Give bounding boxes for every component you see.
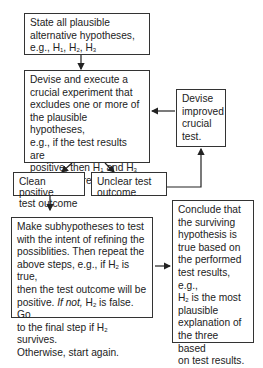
node-text: excludes one or more of	[30, 99, 144, 112]
node-state-hypotheses: State all plausible alternative hypothes…	[24, 13, 150, 55]
node-text: then the test outcome will be	[17, 284, 147, 297]
node-text: Clean positive	[19, 176, 79, 198]
node-text: positive. If not, H2 is false. Go	[17, 297, 147, 322]
node-subhypotheses: Make subhypotheses to test with the inte…	[11, 217, 153, 318]
node-text: crucial experiment that	[30, 87, 144, 100]
node-text: with the intent of refining the	[17, 234, 147, 247]
node-text: Conclude that	[178, 204, 248, 217]
node-text: outcome	[97, 187, 161, 198]
node-text: the performed	[178, 254, 248, 267]
node-text: alternative hypotheses,	[30, 30, 144, 43]
node-clean-positive: Clean positive test outcome	[13, 172, 85, 196]
node-text: above steps, e.g., if H2 is true,	[17, 259, 147, 284]
node-text: State all plausible	[30, 17, 144, 30]
node-text: Unclear test	[97, 176, 161, 187]
node-text: explanation of	[178, 317, 248, 330]
node-text: improved	[182, 106, 220, 119]
node-text: on test results.	[178, 355, 248, 368]
node-conclude: Conclude that the surviving hypothesis i…	[172, 200, 254, 343]
node-crucial-experiment: Devise and execute a crucial experiment …	[24, 70, 150, 163]
node-text: test.	[182, 131, 220, 144]
node-text: H2 is the most	[178, 292, 248, 305]
node-text: e.g., H1, H2, H3	[30, 42, 144, 55]
node-text: test outcome	[19, 198, 79, 209]
node-improved-test: Devise improved crucial test.	[176, 89, 226, 147]
node-text: test results, e.g.,	[178, 267, 248, 292]
node-text: Otherwise, start again.	[17, 347, 147, 360]
node-text: plausible	[178, 305, 248, 318]
node-text: hypothesis is	[178, 229, 248, 242]
node-text: Devise	[182, 93, 220, 106]
node-text: Devise and execute a	[30, 74, 144, 87]
node-unclear-outcome: Unclear test outcome	[91, 172, 167, 196]
node-text: the surviving	[178, 217, 248, 230]
node-text: to the final step if H2 survives.	[17, 322, 147, 347]
node-text: the three based	[178, 330, 248, 355]
node-text: e.g., if the test results are	[30, 137, 144, 162]
node-text: the plausible hypotheses,	[30, 112, 144, 137]
node-text: possiblities. Then repeat the	[17, 246, 147, 259]
node-text: true based on	[178, 242, 248, 255]
node-text: Make subhypotheses to test	[17, 221, 147, 234]
node-text: crucial	[182, 118, 220, 131]
